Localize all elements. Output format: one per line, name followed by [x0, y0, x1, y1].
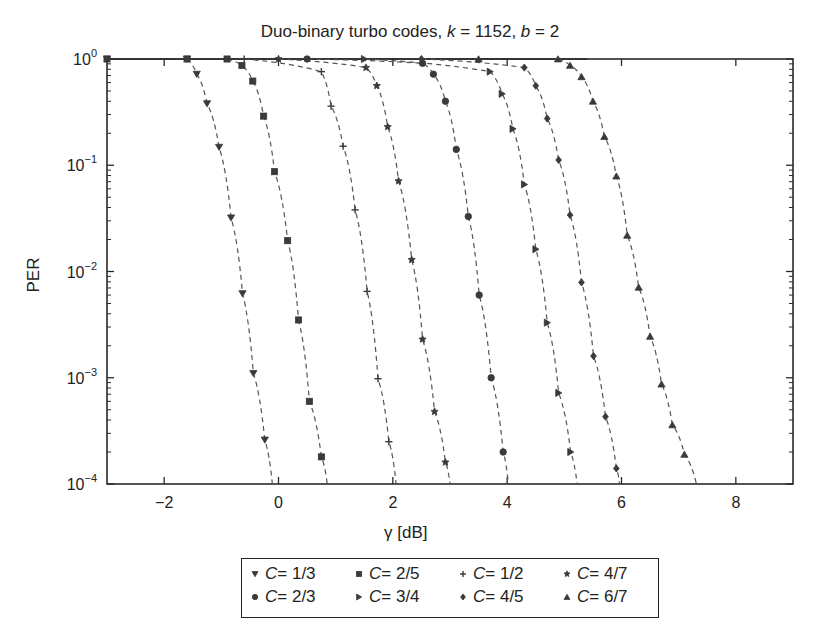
fit-curve	[244, 59, 396, 484]
x-tick-label: 2	[388, 494, 397, 511]
triangle-right-icon	[354, 592, 364, 602]
fit-curve	[364, 59, 577, 484]
legend-item: C = 3/4	[354, 587, 444, 607]
square-icon	[354, 569, 364, 579]
fit-curve	[421, 59, 619, 484]
legend-item: C = 2/3	[250, 587, 340, 607]
x-tick-label: 0	[274, 494, 283, 511]
y-tick-label: 10−2	[67, 260, 97, 281]
x-axis-label: γ [dB]	[384, 523, 427, 543]
y-tick-label: 10−3	[67, 366, 97, 387]
legend: C = 1/3 C = 2/5 C = 1/2 C = 4/7 C = 2/3 …	[241, 558, 659, 618]
series-markers	[361, 55, 573, 455]
y-tick-label: 100	[73, 47, 97, 68]
series-markers	[304, 56, 507, 455]
fit-curve	[307, 59, 508, 484]
legend-item: C = 2/5	[354, 564, 444, 584]
fit-curve	[558, 59, 696, 484]
y-tick-label: 10−4	[67, 472, 97, 493]
plot-frame	[107, 59, 793, 484]
legend-item: C = 6/7	[562, 587, 652, 607]
series-markers	[419, 55, 620, 472]
x-tick-label: 6	[617, 494, 626, 511]
y-axis-label: PER	[14, 255, 54, 295]
axes: −20246810010−110−210−310−4	[67, 47, 793, 511]
y-tick-label: 10−1	[67, 153, 97, 174]
x-tick-label: 4	[503, 494, 512, 511]
diamond-icon	[458, 592, 468, 602]
series-markers	[475, 56, 688, 458]
triangle-up-icon	[562, 592, 572, 602]
legend-item: C = 1/2	[458, 564, 548, 584]
series-markers	[103, 56, 268, 443]
legend-item: C = 4/5	[458, 587, 548, 607]
star-icon	[562, 569, 572, 579]
legend-item: C = 4/7	[562, 564, 652, 584]
series-markers	[275, 55, 449, 465]
circle-icon	[250, 592, 260, 602]
plot-area: −20246810010−110−210−310−4	[0, 0, 820, 520]
fit-curve	[227, 59, 327, 484]
fit-curves	[107, 59, 696, 484]
fit-curve	[279, 59, 451, 484]
x-tick-label: 8	[731, 494, 740, 511]
triangle-down-icon	[250, 569, 260, 579]
plus-icon	[458, 569, 468, 579]
x-tick-label: −2	[155, 494, 173, 511]
fit-curve	[187, 59, 272, 484]
legend-item: C = 1/3	[250, 564, 340, 584]
